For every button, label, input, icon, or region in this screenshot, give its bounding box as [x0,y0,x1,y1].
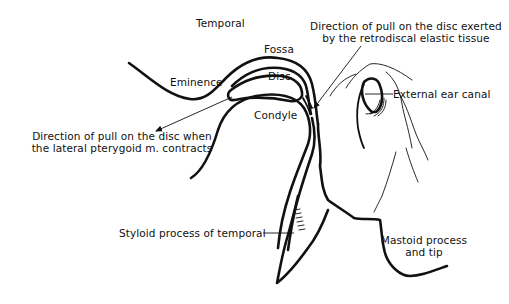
label-retrodiscal-pull-line1: Direction of pull on the disc exerted [306,20,506,32]
mastoid-surface-line-2 [330,74,356,96]
label-retrodiscal-pull-line2: by the retrodiscal elastic tissue [306,32,506,44]
label-styloid-process: Styloid process of temporal [119,227,266,239]
styloid-hatching [295,209,305,230]
label-external-ear-canal: External ear canal [393,88,490,100]
label-disc: Disc [268,70,291,82]
label-pterygoid-pull-line2: the lateral pterygoid m. contracts [22,142,222,154]
label-pterygoid-pull-line1: Direction of pull on the disc when [22,130,222,142]
label-mastoid-line2: and tip [378,246,470,258]
label-retrodiscal-pull: Direction of pull on the disc exerted by… [306,20,506,44]
label-pterygoid-pull: Direction of pull on the disc when the l… [22,130,222,154]
mastoid-surface-line-6 [406,148,418,182]
label-mastoid-process: Mastoid process and tip [378,234,470,258]
label-mastoid-line1: Mastoid process [378,234,470,246]
label-fossa: Fossa [264,43,294,55]
label-condyle: Condyle [254,109,297,121]
label-temporal: Temporal [196,17,245,29]
mastoid-surface-line-5 [374,152,396,212]
mastoid-surface-line-3 [386,72,412,148]
ear-canal-outline [362,79,382,112]
label-eminence: Eminence [170,76,223,88]
tmj-diagram: Temporal Fossa Eminence Disc Condyle Ext… [0,0,509,304]
mastoid-surface-line-4 [398,92,428,160]
